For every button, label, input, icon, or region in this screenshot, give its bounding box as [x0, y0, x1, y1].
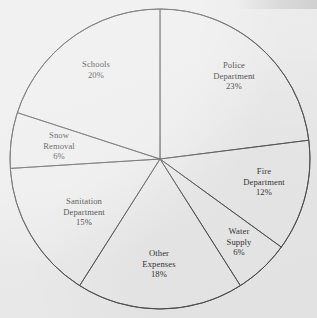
pie-label-value: 6% — [227, 247, 252, 258]
pie-label-name-line: Department — [213, 71, 255, 82]
pie-label-name-line: Department — [243, 177, 285, 188]
pie-label-value: 15% — [63, 217, 105, 228]
pie-label-name-line: Sanitation — [63, 196, 105, 207]
pie-label-name-line: Fire — [243, 166, 285, 177]
pie-label-name-line: Department — [63, 207, 105, 218]
pie-label-name-line: Police — [213, 60, 255, 71]
pie-label-name-line: Expenses — [142, 259, 175, 270]
pie-label-name-line: Schools — [82, 59, 110, 70]
pie-label-value: 6% — [43, 151, 75, 162]
pie-label-name-line: Snow — [43, 130, 75, 141]
pie-label-sanitation-department: SanitationDepartment15% — [63, 196, 105, 228]
pie-label-fire-department: FireDepartment12% — [243, 166, 285, 198]
pie-label-value: 12% — [243, 187, 285, 198]
pie-label-other-expenses: OtherExpenses18% — [142, 248, 175, 280]
pie-label-value: 18% — [142, 269, 175, 280]
pie-label-value: 20% — [82, 70, 110, 81]
pie-label-police-department: PoliceDepartment23% — [213, 60, 255, 92]
pie-label-value: 23% — [213, 81, 255, 92]
pie-label-name-line: Removal — [43, 141, 75, 152]
pie-label-schools: Schools20% — [82, 59, 110, 80]
pie-label-name-line: Other — [142, 248, 175, 259]
pie-label-water-supply: WaterSupply6% — [227, 226, 252, 258]
pie-label-name-line: Water — [227, 226, 252, 237]
pie-label-name-line: Supply — [227, 237, 252, 248]
pie-chart-figure: PoliceDepartment23%FireDepartment12%Wate… — [0, 0, 317, 318]
pie-label-snow-removal: SnowRemoval6% — [43, 130, 75, 162]
